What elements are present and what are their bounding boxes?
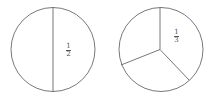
numerator: 1 [174, 29, 178, 36]
denominator: 3 [174, 37, 178, 44]
denominator: 2 [66, 51, 70, 58]
divider-line-left [121, 50, 160, 66]
divider-line-right [160, 50, 189, 81]
fraction-label-half: 1 2 [66, 43, 71, 58]
fraction-label-third: 1 3 [174, 29, 179, 44]
circle-outline [119, 8, 203, 92]
circle-halves [11, 8, 95, 92]
fraction-circles-figure [0, 0, 214, 99]
circle-thirds [119, 8, 203, 92]
numerator: 1 [66, 43, 70, 50]
